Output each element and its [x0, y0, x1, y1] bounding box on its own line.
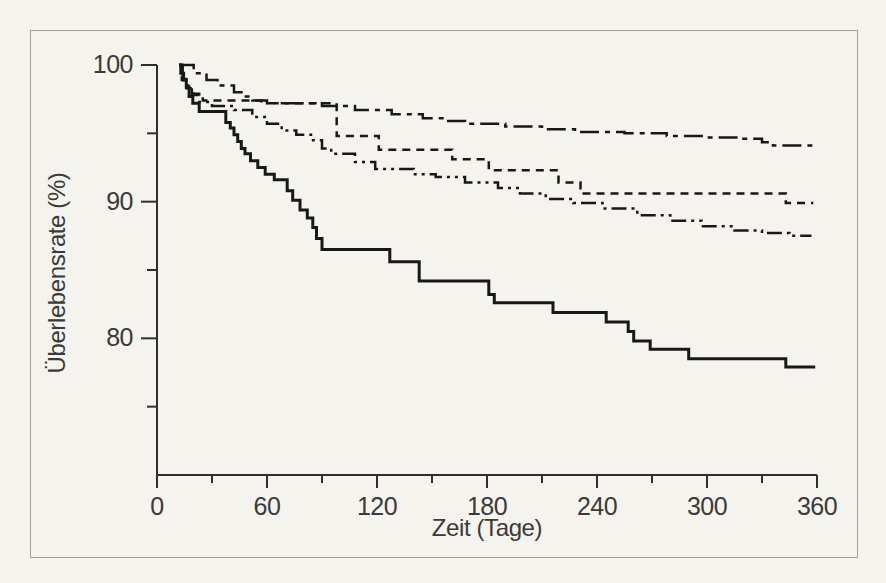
y-tick-label: 80	[106, 323, 133, 351]
y-tick-label: 100	[93, 50, 133, 78]
y-tick-label: 90	[106, 187, 133, 215]
survival-chart-svg: 1009080060120180240300360	[0, 0, 886, 583]
x-axis-title: Zeit (Tage)	[157, 514, 817, 542]
curve-solid	[179, 65, 815, 367]
curve-dash-dot	[179, 65, 817, 146]
axis-lines	[157, 65, 817, 475]
chart-figure: 1009080060120180240300360 Überlebensrate…	[0, 0, 886, 583]
curve-dash-dot-dot	[179, 65, 812, 236]
y-axis-title: Überlebensrate (%)	[43, 123, 71, 423]
